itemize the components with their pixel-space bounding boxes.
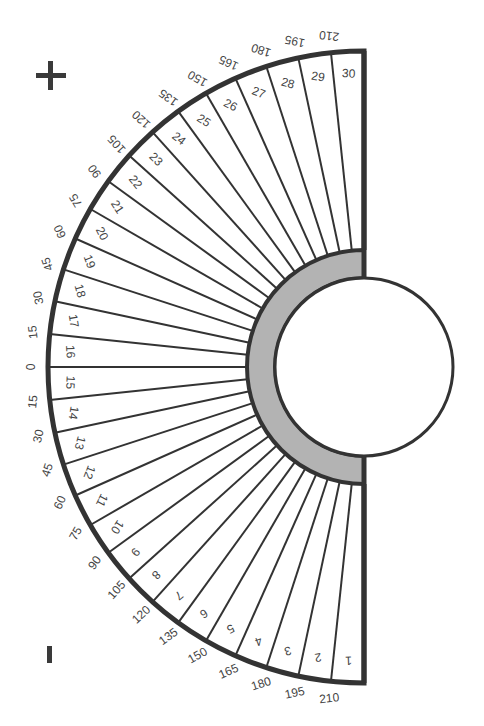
segment-divider bbox=[129, 156, 277, 289]
scale-label: 0 bbox=[24, 363, 38, 370]
scale-label: 150 bbox=[185, 644, 210, 666]
scale-label: 105 bbox=[105, 577, 129, 601]
segment-number: 20 bbox=[93, 224, 112, 243]
segment-number: 18 bbox=[72, 283, 89, 300]
scale-label: 90 bbox=[85, 161, 104, 180]
center-circle bbox=[275, 278, 453, 456]
segment-number: 15 bbox=[63, 375, 78, 389]
scale-label: 135 bbox=[156, 86, 181, 109]
segment-number: 23 bbox=[146, 149, 166, 169]
segment-number: 8 bbox=[149, 568, 164, 583]
scale-label: 210 bbox=[318, 28, 340, 44]
segment-divider bbox=[206, 93, 306, 265]
segment-divider bbox=[108, 181, 269, 298]
segment-divider bbox=[178, 111, 295, 272]
segment-divider bbox=[153, 454, 286, 602]
segment-number: 11 bbox=[93, 492, 111, 510]
scale-label: 120 bbox=[129, 602, 153, 626]
segment-number: 26 bbox=[221, 96, 240, 115]
scale-label: 60 bbox=[51, 493, 69, 511]
segment-divider bbox=[206, 468, 306, 640]
scale-label: 195 bbox=[284, 684, 307, 702]
scale-label: 180 bbox=[249, 40, 273, 60]
segment-number: 17 bbox=[66, 313, 82, 329]
segment-divider bbox=[55, 301, 250, 342]
segment-number: 7 bbox=[172, 588, 186, 603]
segment-number: 5 bbox=[224, 621, 237, 637]
segment-divider bbox=[331, 483, 352, 681]
segment-number: 14 bbox=[66, 405, 82, 421]
scale-label: 45 bbox=[39, 461, 57, 478]
segment-divider bbox=[55, 391, 250, 432]
scale-label: 90 bbox=[85, 553, 104, 572]
segment-divider bbox=[235, 78, 316, 260]
segment-divider bbox=[178, 462, 295, 623]
segment-divider bbox=[129, 445, 277, 578]
segment-divider bbox=[153, 132, 286, 280]
scale-label: 165 bbox=[216, 52, 240, 73]
segment-divider bbox=[108, 436, 269, 553]
segment-number: 29 bbox=[310, 69, 326, 85]
segment-number: 9 bbox=[128, 545, 143, 559]
scale-label: 45 bbox=[38, 255, 56, 272]
segment-divider bbox=[90, 209, 262, 309]
scale-label: 210 bbox=[318, 690, 340, 706]
segment-number: 1 bbox=[345, 653, 353, 667]
segment-number: 24 bbox=[169, 129, 188, 148]
scale-label: 165 bbox=[217, 661, 241, 682]
segment-number: 28 bbox=[280, 75, 297, 92]
segment-number: 6 bbox=[197, 606, 210, 622]
segment-divider bbox=[266, 66, 327, 255]
scale-label: 30 bbox=[30, 428, 47, 444]
segment-number: 21 bbox=[108, 197, 127, 216]
segment-number: 22 bbox=[126, 172, 145, 191]
scale-label: 15 bbox=[25, 325, 40, 340]
scale-label: 15 bbox=[25, 394, 40, 409]
segment-divider bbox=[331, 53, 352, 251]
scale-label: 120 bbox=[129, 107, 153, 131]
scale-label: 75 bbox=[66, 191, 85, 210]
segment-divider bbox=[298, 481, 339, 676]
segment-number: 25 bbox=[194, 111, 213, 130]
segment-divider bbox=[75, 415, 257, 496]
segment-number: 30 bbox=[342, 66, 356, 81]
segment-divider bbox=[50, 334, 248, 355]
scale-label: 75 bbox=[66, 524, 85, 543]
scale-label: 60 bbox=[51, 222, 69, 240]
segment-number: 27 bbox=[250, 84, 268, 102]
segment-divider bbox=[50, 379, 248, 400]
segment-number: 19 bbox=[81, 253, 99, 271]
scale-label: 135 bbox=[156, 625, 181, 648]
segment-divider bbox=[90, 426, 262, 526]
scale-label: 105 bbox=[104, 132, 128, 156]
segment-divider bbox=[63, 269, 252, 330]
segment-number: 2 bbox=[313, 650, 322, 665]
scale-label: 30 bbox=[30, 289, 47, 305]
segment-number: 16 bbox=[63, 345, 78, 359]
dial-diagram: 1234567891011121314151617181920212223242… bbox=[0, 0, 484, 726]
segment-number: 3 bbox=[283, 643, 293, 658]
segment-number: 10 bbox=[108, 518, 127, 537]
segment-divider bbox=[298, 58, 339, 253]
segment-number: 4 bbox=[253, 634, 265, 650]
segment-divider bbox=[266, 478, 327, 667]
scale-label: 150 bbox=[185, 67, 210, 89]
segment-divider bbox=[235, 474, 316, 656]
segment-number: 13 bbox=[71, 435, 88, 452]
scale-label: 180 bbox=[249, 674, 273, 694]
segment-divider bbox=[63, 403, 252, 464]
scale-label: 195 bbox=[283, 32, 306, 50]
segment-divider bbox=[75, 238, 257, 319]
segment-number: 12 bbox=[80, 464, 98, 482]
